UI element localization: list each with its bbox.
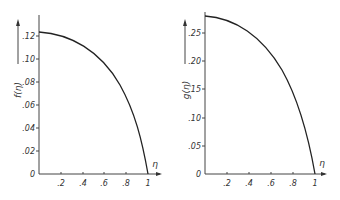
x-tick-label: .8	[289, 179, 297, 188]
y-axis-arrow-icon	[16, 19, 20, 26]
series-line-f	[39, 32, 148, 174]
y-tick-label: .05	[188, 142, 201, 151]
x-axis-arrow-icon	[321, 172, 327, 176]
y-tick-label: .08	[22, 78, 35, 87]
x-tick-label: .2	[223, 179, 231, 188]
y-tick-label: 0	[30, 170, 35, 179]
chart-g-eta: 0 .05 .10 .15 .20 .25 .2 .4 .6 .8 1 η g(…	[181, 12, 327, 188]
figure: 0 .02 .04 .06 .08 .10 .12 .2 .4 .6 .8 1 …	[0, 0, 340, 200]
x-axis-label: η	[319, 158, 325, 168]
x-tick-label: .8	[122, 179, 130, 188]
y-axis-label: g(η)	[181, 81, 191, 99]
y-tick-label: 0	[196, 170, 201, 179]
x-tick-label: .6	[100, 179, 108, 188]
chart-f-eta: 0 .02 .04 .06 .08 .10 .12 .2 .4 .6 .8 1 …	[13, 15, 162, 188]
x-tick-label: 1	[312, 179, 317, 188]
series-line-g	[205, 16, 315, 174]
x-tick-label: .4	[79, 179, 87, 188]
y-tick-label: .04	[22, 124, 35, 133]
x-tick-label: 1	[145, 179, 150, 188]
y-tick-label: .02	[22, 147, 35, 156]
y-tick-label: .20	[188, 57, 201, 66]
y-tick-label: .10	[188, 114, 201, 123]
y-tick-label: .25	[188, 29, 201, 38]
y-axis-arrow-icon	[183, 19, 187, 26]
x-tick-label: .6	[267, 179, 275, 188]
x-tick-label: .4	[245, 179, 253, 188]
x-tick-label: .2	[57, 179, 65, 188]
y-axis-label: f(η)	[13, 82, 23, 98]
y-tick-label: .06	[22, 101, 35, 110]
x-axis-arrow-icon	[156, 172, 162, 176]
y-tick-label: .12	[22, 32, 35, 41]
x-axis-label: η	[152, 159, 158, 169]
y-tick-label: .10	[22, 55, 35, 64]
